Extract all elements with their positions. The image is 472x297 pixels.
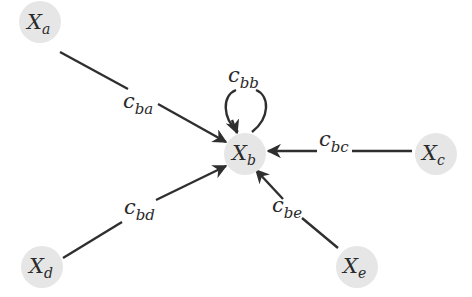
edge-label-ba: cba [123,89,153,118]
node-xb: Xb [224,133,266,175]
edge-ba: cba [60,52,226,142]
edge-label-bc: cbc [319,127,349,156]
edge-label-bb: cbb [228,63,259,92]
edge-be: cbe [256,170,338,248]
node-xe: Xe [336,246,378,288]
node-xa: Xa [19,1,61,43]
edge-bd: cbd [63,166,226,258]
edge-label-be: cbe [272,193,302,222]
edge-bd-segment-2 [156,166,226,200]
node-xd: Xd [21,246,63,288]
edge-bd-segment-1 [63,222,122,258]
self-loop-bb [226,90,266,132]
edge-ba-segment-1 [60,52,128,89]
node-xc: Xc [415,133,457,175]
edge-ba-segment-2 [158,104,226,142]
edge-label-bd: cbd [124,195,155,224]
edge-bc: cbc [268,127,412,156]
edge-be-segment-1 [302,218,338,248]
edge-bb: cbb [226,63,266,133]
graph-diagram: cba cbb cbc cbd cbe Xa Xb Xc Xd X [0,0,472,297]
